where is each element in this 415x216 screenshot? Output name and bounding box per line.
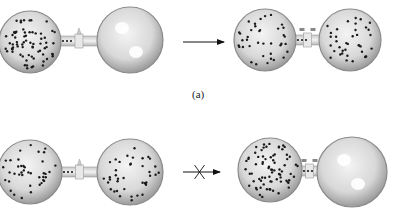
gas-molecule [141,182,143,184]
gas-molecule [22,28,24,30]
glass-highlight [337,154,351,166]
panel-a-label: (a) [192,88,204,100]
gas-molecule [268,166,270,168]
gas-molecule [2,166,4,168]
gas-molecule [254,152,256,154]
gas-molecule [141,194,143,196]
gas-molecule [335,40,337,42]
gas-molecule [259,18,261,20]
gas-molecule [352,35,354,37]
gas-molecule [26,64,28,66]
gas-molecule [335,36,337,38]
gas-molecule [116,180,118,182]
gas-molecule [261,176,263,178]
gas-molecule [18,173,20,175]
gas-molecule [54,31,56,33]
gas-molecule [5,35,7,37]
gas-molecule [46,58,48,60]
gas-molecule [278,168,280,170]
gas-molecule [282,56,284,58]
gas-molecule [109,161,111,163]
gas-molecule [255,146,257,148]
gas-molecule [344,49,346,51]
gas-molecule [31,45,33,47]
gas-molecule [284,43,286,45]
panel-a-initial-flask-right [97,7,163,73]
gas-molecule [266,188,268,190]
gas-molecule [356,34,358,36]
gas-molecule [249,173,251,175]
gas-molecule [148,171,150,173]
gas-molecule [303,170,305,172]
gas-molecule [136,194,138,196]
gas-molecule [257,156,259,158]
gas-molecule [23,41,25,43]
gas-molecule [254,25,256,27]
gas-molecule [259,29,261,31]
gas-molecule [154,165,156,167]
gas-molecule [260,180,262,182]
gas-molecule [360,18,362,20]
gas-molecule [264,158,266,160]
gas-expansion-diagram: (a) [0,0,415,216]
gas-molecule [19,54,21,56]
gas-molecule [296,165,298,167]
gas-molecule [42,60,44,62]
gas-molecule [272,154,274,156]
gas-molecule [29,185,31,187]
gas-molecule [117,178,119,180]
panel-a-final-valve [304,33,312,47]
gas-molecule [250,29,252,31]
gas-molecule [364,56,366,58]
gas-molecule [284,164,286,166]
gas-molecule [16,41,18,43]
gas-molecule [248,45,250,47]
gas-molecule [257,42,259,44]
gas-molecule [48,171,50,173]
panel-a-initial-valve-stopcock [77,28,81,34]
panel-b-final-valve-handle [313,159,318,162]
gas-molecule [109,178,111,180]
gas-molecule [352,60,354,62]
gas-molecule [42,176,44,178]
gas-molecule [37,50,39,52]
glass-highlight [351,178,365,190]
gas-molecule [277,192,279,194]
gas-molecule [32,65,34,67]
gas-molecule [71,171,73,173]
gas-molecule [253,180,255,182]
gas-molecule [54,164,56,166]
gas-molecule [345,59,347,61]
gas-molecule [63,171,65,173]
gas-molecule [281,170,283,172]
gas-molecule [336,28,338,30]
gas-molecule [288,186,290,188]
gas-molecule [354,22,356,24]
panel-a-final-valve-handle [300,28,305,31]
gas-molecule [149,157,151,159]
gas-molecule [281,148,283,150]
gas-molecule [32,43,34,45]
gas-molecule [5,159,7,161]
gas-molecule [23,19,25,21]
gas-molecule [289,156,291,158]
gas-molecule [122,177,124,179]
gas-molecule [42,64,44,66]
gas-molecule [30,144,32,146]
gas-molecule [107,181,109,183]
gas-molecule [369,34,371,36]
panel-b-final-valve-handle [302,159,307,162]
gas-molecule [66,40,68,42]
gas-molecule [338,46,340,48]
gas-molecule [19,149,21,151]
gas-molecule [255,63,257,65]
gas-molecule [282,27,284,29]
gas-molecule [39,184,41,186]
gas-molecule [41,160,43,162]
gas-molecule [269,180,271,182]
gas-molecule [270,42,272,44]
panel-a-initial-valve [75,34,83,48]
gas-molecule [354,29,356,31]
gas-molecule [119,195,121,197]
gas-molecule [346,55,348,57]
